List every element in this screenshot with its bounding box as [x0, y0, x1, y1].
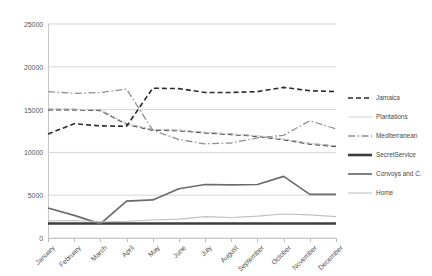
legend-label: Mediterranean	[372, 132, 417, 139]
legend-item-secretservice[interactable]: SecretService	[348, 145, 432, 164]
x-axis-tick-label: February	[58, 244, 82, 268]
legend-label: Plantations	[372, 113, 408, 120]
legend-item-convoys-and-c[interactable]: Convoys and C.	[348, 164, 432, 183]
x-axis-tick-mark	[127, 238, 128, 242]
y-axis-tick-label: 0	[39, 235, 43, 242]
x-axis-tick-label: November	[291, 244, 318, 271]
legend-swatch-icon	[348, 150, 372, 160]
legend-swatch-icon	[348, 131, 372, 141]
x-axis-tick-mark	[257, 238, 258, 242]
legend-item-jamaica[interactable]: Jamaica	[348, 88, 432, 107]
y-axis-tick-label: 25000	[24, 21, 43, 28]
x-axis-tick-mark	[179, 238, 180, 242]
y-axis-tick-label: 10000	[24, 149, 43, 156]
legend-swatch-icon	[348, 112, 372, 122]
legend-item-home[interactable]: Home	[348, 183, 432, 202]
x-axis-tick-mark	[336, 238, 337, 242]
x-axis-tick-mark	[48, 238, 49, 242]
x-axis-tick-mark	[100, 238, 101, 242]
legend-label: Convoys and C.	[372, 170, 422, 177]
x-axis-tick-label: March	[90, 244, 108, 262]
x-axis-tick-mark	[205, 238, 206, 242]
x-axis-tick-mark	[231, 238, 232, 242]
legend-item-mediterranean[interactable]: Mediterranean	[348, 126, 432, 145]
legend-label: Jamaica	[372, 94, 400, 101]
x-axis-tick-label: December	[317, 244, 344, 271]
x-axis-tick-mark	[74, 238, 75, 242]
x-axis-tick-label: May	[147, 244, 161, 258]
x-axis-tick-mark	[153, 238, 154, 242]
y-axis-tick-label: 15000	[24, 106, 43, 113]
legend-label: Home	[372, 189, 393, 196]
series-lines	[48, 24, 336, 238]
series-line-mediterranean	[48, 89, 336, 144]
x-axis-tick-label: January	[34, 244, 56, 266]
legend-label: SecretService	[372, 151, 416, 158]
x-axis-tick-label: September	[237, 244, 266, 273]
x-axis-tick-label: October	[270, 244, 292, 266]
legend-item-plantations[interactable]: Plantations	[348, 107, 432, 126]
x-axis-tick-mark	[310, 238, 311, 242]
y-axis-tick-label: 20000	[24, 63, 43, 70]
legend-swatch-icon	[348, 93, 372, 103]
legend-swatch-icon	[348, 169, 372, 179]
y-axis-tick-label: 5000	[28, 192, 43, 199]
series-line-convoys-and-c	[48, 176, 336, 224]
x-axis-tick-label: April	[120, 244, 135, 259]
plot-area: 2500020000150001000050000	[48, 24, 336, 238]
x-axis-tick-mark	[284, 238, 285, 242]
legend-swatch-icon	[348, 188, 372, 198]
series-line-plantations	[48, 109, 336, 146]
line-chart: 2500020000150001000050000 JamaicaPlantat…	[0, 0, 432, 276]
x-axis-tick-label: July	[200, 244, 213, 257]
x-axis-tick-label: August	[219, 244, 239, 264]
x-axis-tick-label: June	[171, 244, 186, 259]
chart-legend: JamaicaPlantationsMediterraneanSecretSer…	[348, 88, 432, 202]
